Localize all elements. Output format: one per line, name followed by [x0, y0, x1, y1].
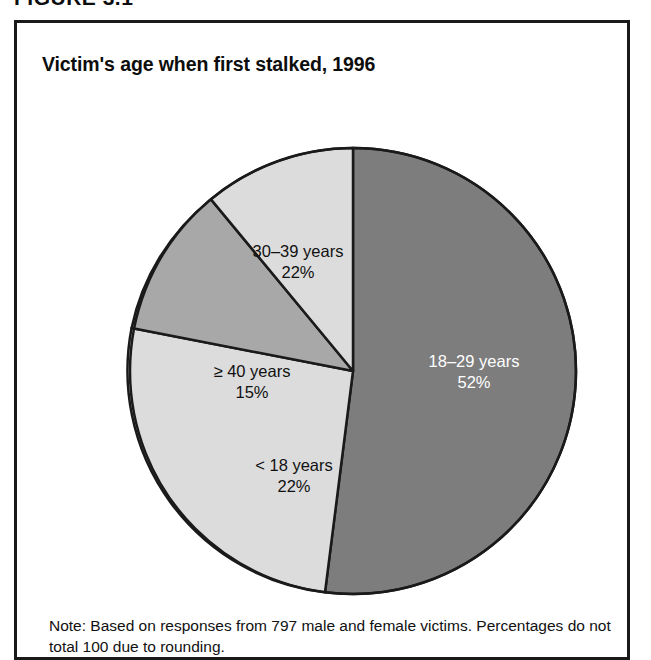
page-title: Victim's age when first stalked, 1996: [42, 53, 375, 76]
pie-label-18-29: 18–29 years 52%: [389, 351, 559, 393]
figure-frame: Victim's age when first stalked, 1996 18…: [14, 20, 630, 660]
pie-label-under-18: < 18 years 22%: [209, 455, 379, 497]
pie-label-18-29-value: 52%: [389, 372, 559, 393]
pie-label-18-29-name: 18–29 years: [429, 352, 520, 370]
figure-number: FIGURE 3.1: [14, 0, 133, 10]
pie-label-under-18-name: < 18 years: [255, 456, 333, 474]
chart-note: Note: Based on responses from 797 male a…: [49, 615, 629, 657]
pie-label-under-18-value: 22%: [209, 476, 379, 497]
pie-label-30-39-value: 22%: [213, 262, 383, 283]
pie-label-40-plus: ≥ 40 years 15%: [167, 361, 337, 403]
pie-label-40-plus-name: ≥ 40 years: [214, 362, 291, 380]
pie-label-30-39: 30–39 years 22%: [213, 241, 383, 283]
pie-label-30-39-name: 30–39 years: [253, 242, 344, 260]
pie-label-40-plus-value: 15%: [167, 382, 337, 403]
